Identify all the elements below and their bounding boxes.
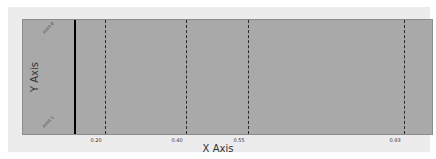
xtick-label: 0.93 (389, 137, 400, 143)
chart-figure: point 0 point 1 Y Axis 0.20 0.40 0.55 0.… (8, 7, 430, 152)
xtick-label: 0.40 (171, 137, 182, 143)
plot-area (22, 19, 433, 135)
dashed-line-0-93 (404, 20, 405, 134)
dashed-line-0-55 (248, 20, 249, 134)
dashed-line-0-40 (186, 20, 187, 134)
x-axis-label: X Axis (203, 143, 234, 154)
y-axis-label: Y Axis (29, 62, 40, 92)
solid-vertical-line (74, 20, 76, 134)
xtick-label: 0.20 (90, 137, 101, 143)
dashed-line-0-20 (105, 20, 106, 134)
xtick-label: 0.55 (233, 137, 244, 143)
